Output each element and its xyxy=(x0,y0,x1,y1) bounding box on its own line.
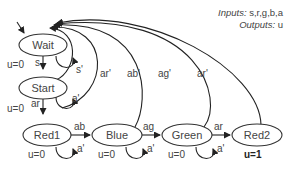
label-start-loop: a' xyxy=(72,93,80,104)
label-red1-loop: a' xyxy=(77,143,85,154)
label-green-red2: ar xyxy=(214,121,224,132)
state-blue: Blue xyxy=(92,124,142,146)
output-start: u=0 xyxy=(7,103,24,114)
initial-arrow xyxy=(17,22,24,33)
state-start: Start xyxy=(19,77,67,99)
loop-blue xyxy=(126,147,144,159)
svg-text:Start: Start xyxy=(31,82,54,94)
label-wait-start: s xyxy=(35,57,40,68)
output-red1: u=0 xyxy=(28,149,45,160)
state-red1: Red1 xyxy=(23,124,71,146)
state-red2: Red2 xyxy=(232,124,282,146)
output-red2: u=1 xyxy=(244,149,262,160)
label-green-wait: ar' xyxy=(197,68,208,79)
svg-text:Green: Green xyxy=(172,129,203,141)
label-start-red1: ar xyxy=(31,98,41,109)
state-wait: Wait xyxy=(19,34,67,56)
label-green-loop: a' xyxy=(217,143,225,154)
label-red1-blue: ab xyxy=(74,121,86,132)
state-green: Green xyxy=(162,124,212,146)
label-blue-wait: ag' xyxy=(158,68,171,79)
svg-text:Red1: Red1 xyxy=(34,129,60,141)
legend: Inputs: s,r,g,b,a Outputs: u xyxy=(218,7,283,31)
loop-green xyxy=(196,147,214,159)
legend-inputs: Inputs: s,r,g,b,a xyxy=(218,7,283,19)
label-blue-loop: a' xyxy=(147,143,155,154)
label-wait-loop: s' xyxy=(76,64,83,75)
label-red1-wait: ab' xyxy=(127,68,140,79)
label-start-wait: ar' xyxy=(100,68,111,79)
svg-text:Wait: Wait xyxy=(32,39,54,51)
legend-outputs: Outputs: u xyxy=(218,19,283,31)
loop-red1 xyxy=(56,147,74,159)
output-green: u=0 xyxy=(168,149,185,160)
output-wait: u=0 xyxy=(7,59,24,70)
label-blue-green: ag xyxy=(143,121,154,132)
svg-text:Red2: Red2 xyxy=(244,129,270,141)
svg-text:Blue: Blue xyxy=(106,129,128,141)
output-blue: u=0 xyxy=(98,149,115,160)
